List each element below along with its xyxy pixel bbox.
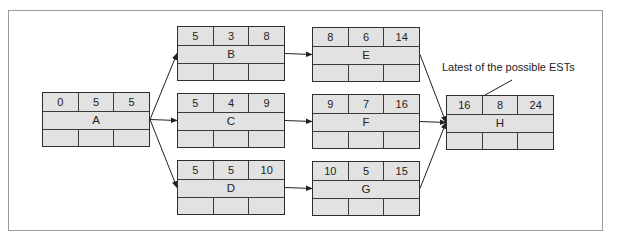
slack-cell bbox=[348, 131, 384, 149]
lst-cell bbox=[43, 129, 78, 147]
node-H: 16824 H bbox=[446, 95, 554, 150]
lst-cell bbox=[178, 63, 213, 81]
est-cell: 5 bbox=[178, 161, 213, 179]
eft-cell: 24 bbox=[517, 96, 553, 114]
eft-cell: 9 bbox=[248, 94, 284, 112]
lst-cell bbox=[178, 197, 213, 215]
activity-name: B bbox=[178, 46, 284, 64]
node-E: 8614 E bbox=[312, 27, 420, 82]
duration-cell: 6 bbox=[348, 28, 384, 46]
lft-cell bbox=[248, 63, 284, 81]
est-cell: 5 bbox=[178, 27, 213, 45]
node-F: 9716 F bbox=[312, 94, 420, 149]
eft-cell: 10 bbox=[248, 161, 284, 179]
annotation-label: Latest of the possible ESTs bbox=[442, 61, 575, 73]
eft-cell: 8 bbox=[248, 27, 284, 45]
node-B: 538 B bbox=[177, 26, 285, 81]
lst-cell bbox=[313, 64, 348, 82]
eft-cell: 5 bbox=[113, 93, 149, 111]
slack-cell bbox=[348, 198, 384, 216]
lft-cell bbox=[113, 129, 149, 147]
duration-cell: 4 bbox=[213, 94, 249, 112]
node-C: 549 C bbox=[177, 93, 285, 148]
duration-cell: 7 bbox=[348, 95, 384, 113]
slack-cell bbox=[348, 64, 384, 82]
est-cell: 0 bbox=[43, 93, 78, 111]
node-A: 055 A bbox=[42, 92, 150, 147]
lst-cell bbox=[447, 132, 482, 150]
est-cell: 5 bbox=[178, 94, 213, 112]
node-D: 5510 D bbox=[177, 160, 285, 215]
duration-cell: 5 bbox=[213, 161, 249, 179]
activity-name: G bbox=[313, 181, 419, 199]
lft-cell bbox=[383, 64, 419, 82]
lst-cell bbox=[313, 198, 348, 216]
activity-name: C bbox=[178, 113, 284, 131]
lft-cell bbox=[383, 198, 419, 216]
lft-cell bbox=[248, 197, 284, 215]
est-cell: 10 bbox=[313, 162, 348, 180]
slack-cell bbox=[482, 132, 518, 150]
activity-name: F bbox=[313, 114, 419, 132]
activity-name: D bbox=[178, 180, 284, 198]
lst-cell bbox=[313, 131, 348, 149]
est-cell: 9 bbox=[313, 95, 348, 113]
slack-cell bbox=[213, 130, 249, 148]
slack-cell bbox=[213, 197, 249, 215]
duration-cell: 8 bbox=[482, 96, 518, 114]
activity-name: H bbox=[447, 115, 553, 133]
eft-cell: 16 bbox=[383, 95, 419, 113]
lft-cell bbox=[517, 132, 553, 150]
slack-cell bbox=[213, 63, 249, 81]
lst-cell bbox=[178, 130, 213, 148]
duration-cell: 3 bbox=[213, 27, 249, 45]
node-G: 10515 G bbox=[312, 161, 420, 216]
est-cell: 8 bbox=[313, 28, 348, 46]
eft-cell: 15 bbox=[383, 162, 419, 180]
est-cell: 16 bbox=[447, 96, 482, 114]
duration-cell: 5 bbox=[348, 162, 384, 180]
slack-cell bbox=[78, 129, 114, 147]
activity-name: A bbox=[43, 112, 149, 130]
lft-cell bbox=[383, 131, 419, 149]
eft-cell: 14 bbox=[383, 28, 419, 46]
lft-cell bbox=[248, 130, 284, 148]
duration-cell: 5 bbox=[78, 93, 114, 111]
activity-name: E bbox=[313, 47, 419, 65]
